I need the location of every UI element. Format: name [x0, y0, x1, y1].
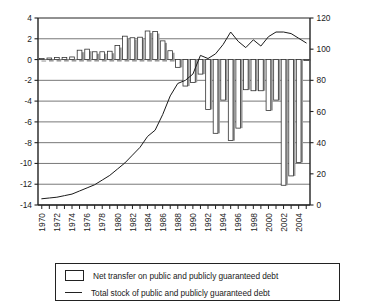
svg-text:4: 4: [27, 13, 32, 23]
svg-text:80: 80: [317, 75, 327, 85]
svg-text:1976: 1976: [82, 213, 92, 232]
plot-frame: [38, 18, 310, 205]
svg-text:20: 20: [317, 169, 327, 179]
chart-plot-area: -14-12-10-8-6-4-2024 020406080100120 197…: [0, 0, 365, 250]
svg-text:-14: -14: [20, 200, 32, 210]
svg-text:-12: -12: [20, 179, 32, 189]
svg-text:-6: -6: [25, 117, 33, 127]
svg-text:1990: 1990: [188, 213, 198, 232]
svg-text:1986: 1986: [158, 213, 168, 232]
svg-text:1978: 1978: [97, 213, 107, 232]
x-axis-tick-labels: 1970197219741976197819801982198419861988…: [37, 213, 304, 232]
right-axis-tick-labels: 020406080100120: [317, 13, 331, 210]
left-axis-tick-labels: -14-12-10-8-6-4-2024: [20, 13, 32, 210]
svg-text:-10: -10: [20, 158, 32, 168]
svg-text:1974: 1974: [67, 213, 77, 232]
svg-text:1996: 1996: [233, 213, 243, 232]
legend-item-total-stock: Total stock of public and publicly guara…: [56, 284, 339, 301]
svg-text:1984: 1984: [143, 213, 153, 232]
svg-text:1998: 1998: [249, 213, 259, 232]
svg-text:1970: 1970: [37, 213, 47, 232]
svg-text:-2: -2: [25, 75, 33, 85]
bars-group: [39, 31, 310, 185]
svg-text:120: 120: [317, 13, 331, 23]
bar-swatch-icon: [65, 270, 84, 281]
legend-item-net-transfer: Net transfer on public and publicly guar…: [56, 267, 339, 284]
chart-screenshot: -14-12-10-8-6-4-2024 020406080100120 197…: [0, 0, 365, 306]
chart-svg: -14-12-10-8-6-4-2024 020406080100120 197…: [0, 0, 365, 250]
svg-text:-8: -8: [25, 138, 33, 148]
svg-text:40: 40: [317, 138, 327, 148]
svg-text:2: 2: [27, 34, 32, 44]
chart-legend: Net transfer on public and publicly guar…: [55, 263, 340, 301]
svg-text:1992: 1992: [203, 213, 213, 232]
legend-item-label: Total stock of public and publicly guara…: [91, 288, 270, 298]
svg-text:0: 0: [27, 55, 32, 65]
svg-text:2002: 2002: [279, 213, 289, 232]
svg-text:1988: 1988: [173, 213, 183, 232]
svg-text:-4: -4: [25, 96, 33, 106]
svg-text:1994: 1994: [218, 213, 228, 232]
line-swatch-icon: [65, 292, 82, 293]
svg-text:2004: 2004: [294, 213, 304, 232]
legend-item-label: Net transfer on public and publicly guar…: [93, 271, 278, 281]
svg-text:1972: 1972: [52, 213, 62, 232]
svg-text:60: 60: [317, 107, 327, 117]
svg-text:1982: 1982: [128, 213, 138, 232]
svg-text:100: 100: [317, 44, 331, 54]
svg-text:2000: 2000: [264, 213, 274, 232]
svg-text:1980: 1980: [113, 213, 123, 232]
svg-text:0: 0: [317, 200, 322, 210]
